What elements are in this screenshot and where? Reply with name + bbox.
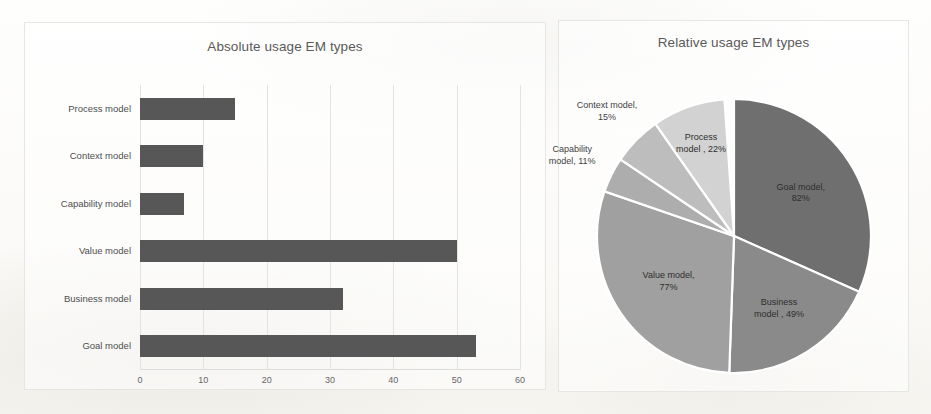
bar-chart-category-label: Context model	[70, 145, 131, 167]
bar-chart-category-label: Process model	[68, 98, 131, 120]
bar-chart-bar	[140, 98, 235, 120]
absolute-usage-bar-chart-panel: Absolute usage EM types 0102030405060Pro…	[24, 22, 546, 390]
bar-chart-gridline	[140, 85, 141, 370]
pie-chart-slice-label: Value model, 77%	[643, 270, 695, 293]
relative-usage-pie-chart-panel: Relative usage EM types Goal model, 82%B…	[558, 20, 909, 392]
bar-chart-row: Capability model	[140, 193, 520, 215]
bar-chart-x-tick-label: 20	[262, 375, 272, 385]
bar-chart-category-label: Business model	[64, 288, 131, 310]
bar-chart-x-tick-label: 50	[452, 375, 462, 385]
pie-chart-slice-label: Business model , 49%	[754, 297, 804, 320]
bar-chart-gridline	[267, 85, 268, 370]
pie-chart-slice-label: Goal model, 82%	[776, 181, 825, 204]
bar-chart-x-tick-label: 30	[325, 375, 335, 385]
bar-chart-category-label: Goal model	[82, 335, 131, 357]
bar-chart-bar	[140, 193, 184, 215]
pie-chart-slice-label: Process model , 22%	[676, 132, 726, 155]
bar-chart-gridline	[203, 85, 204, 370]
bar-chart-row: Value model	[140, 240, 520, 262]
bar-chart-gridline	[330, 85, 331, 370]
bar-chart-row: Process model	[140, 98, 520, 120]
bar-chart-title: Absolute usage EM types	[25, 39, 545, 54]
bar-chart-bar	[140, 145, 203, 167]
bar-chart-row: Context model	[140, 145, 520, 167]
bar-chart-category-label: Value model	[79, 240, 131, 262]
bar-chart-row: Business model	[140, 288, 520, 310]
bar-chart-x-tick-label: 60	[515, 375, 525, 385]
bar-chart-gridline	[457, 85, 458, 370]
pie-chart-slice-label: Context model, 15%	[577, 100, 638, 123]
bar-chart-gridline	[520, 85, 521, 370]
bar-chart-x-tick-label: 0	[137, 375, 142, 385]
bar-chart-category-label: Capability model	[61, 193, 131, 215]
bar-chart-bar	[140, 240, 457, 262]
pie-chart-slice-label: Capability model, 11%	[549, 144, 596, 167]
bar-chart-bar	[140, 335, 476, 357]
bar-chart-plot-area: 0102030405060Process modelContext modelC…	[140, 85, 520, 370]
bar-chart-row: Goal model	[140, 335, 520, 357]
pie-chart-plot-area: Goal model, 82%Business model , 49%Value…	[559, 21, 908, 391]
bar-chart-bar	[140, 288, 343, 310]
bar-chart-x-tick-label: 40	[388, 375, 398, 385]
bar-chart-x-tick-label: 10	[198, 375, 208, 385]
bar-chart-gridline	[393, 85, 394, 370]
pie-chart-svg	[559, 21, 910, 393]
